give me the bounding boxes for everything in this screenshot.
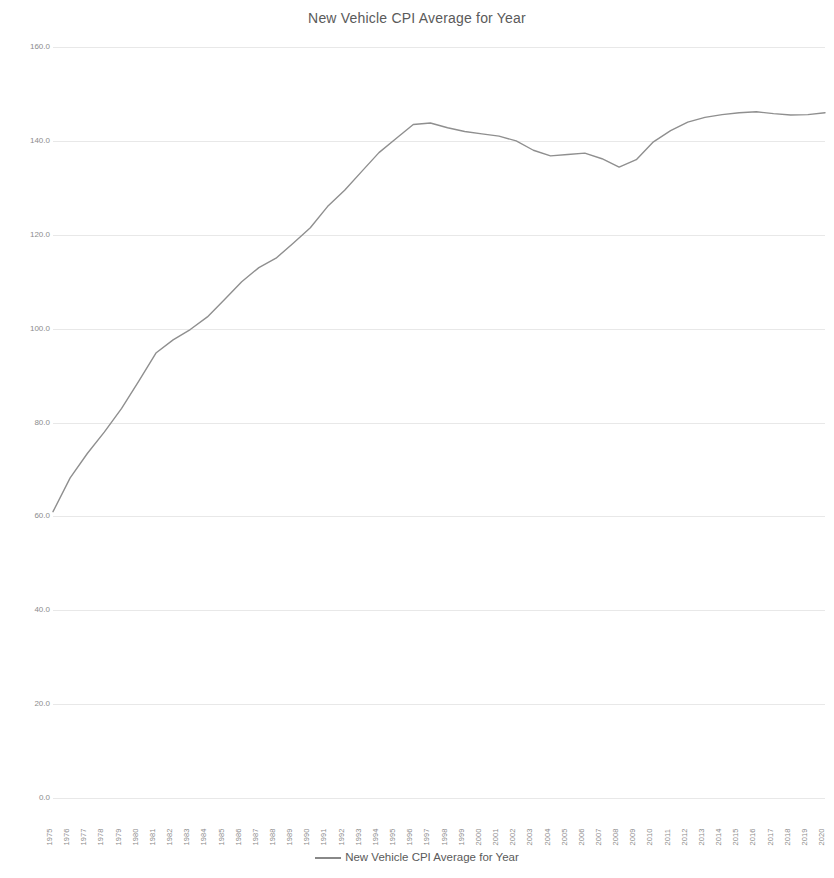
y-tick-label: 120.0 bbox=[4, 231, 50, 239]
x-tick-2013: 2013 bbox=[698, 801, 712, 845]
x-tick-2001: 2001 bbox=[492, 801, 506, 845]
x-tick-label: 1983 bbox=[183, 828, 191, 845]
x-tick-label: 2011 bbox=[663, 828, 671, 845]
x-tick-label: 2014 bbox=[715, 828, 723, 845]
x-tick-label: 2005 bbox=[560, 828, 568, 845]
x-tick-2014: 2014 bbox=[715, 801, 729, 845]
legend-line-swatch bbox=[315, 857, 341, 859]
x-tick-label: 1980 bbox=[131, 828, 139, 845]
x-tick-label: 2004 bbox=[543, 828, 551, 845]
x-tick-2015: 2015 bbox=[732, 801, 746, 845]
x-tick-label: 1985 bbox=[217, 828, 225, 845]
x-tick-label: 1999 bbox=[457, 828, 465, 845]
x-tick-1986: 1986 bbox=[235, 801, 249, 845]
chart-container: New Vehicle CPI Average for Year 0.020.0… bbox=[0, 0, 834, 878]
x-tick-label: 2013 bbox=[697, 828, 705, 845]
x-tick-label: 2010 bbox=[646, 828, 654, 845]
y-tick-label: 80.0 bbox=[4, 419, 50, 427]
x-tick-1999: 1999 bbox=[458, 801, 472, 845]
y-tick-label: 100.0 bbox=[4, 325, 50, 333]
x-axis: 1975197619771978197919801981198219831984… bbox=[53, 800, 825, 845]
x-tick-1987: 1987 bbox=[252, 801, 266, 845]
x-tick-label: 2012 bbox=[680, 828, 688, 845]
y-tick-label: 60.0 bbox=[4, 512, 50, 520]
x-tick-1992: 1992 bbox=[338, 801, 352, 845]
x-tick-label: 2000 bbox=[474, 828, 482, 845]
x-tick-label: 2017 bbox=[766, 828, 774, 845]
x-tick-label: 1991 bbox=[320, 828, 328, 845]
x-tick-label: 2009 bbox=[629, 828, 637, 845]
x-tick-label: 1979 bbox=[114, 828, 122, 845]
x-tick-1982: 1982 bbox=[166, 801, 180, 845]
x-tick-1998: 1998 bbox=[441, 801, 455, 845]
x-tick-label: 2003 bbox=[526, 828, 534, 845]
gridline-0.0 bbox=[53, 798, 825, 799]
x-tick-1977: 1977 bbox=[80, 801, 94, 845]
x-tick-1983: 1983 bbox=[183, 801, 197, 845]
x-tick-1995: 1995 bbox=[389, 801, 403, 845]
x-tick-2005: 2005 bbox=[561, 801, 575, 845]
x-tick-label: 1975 bbox=[46, 828, 54, 845]
x-tick-label: 1982 bbox=[166, 828, 174, 845]
x-tick-2020: 2020 bbox=[818, 801, 832, 845]
x-tick-2000: 2000 bbox=[475, 801, 489, 845]
x-tick-label: 2020 bbox=[818, 828, 826, 845]
x-tick-2009: 2009 bbox=[629, 801, 643, 845]
x-tick-label: 2008 bbox=[612, 828, 620, 845]
y-tick-label: 40.0 bbox=[4, 606, 50, 614]
x-tick-1980: 1980 bbox=[132, 801, 146, 845]
x-tick-1990: 1990 bbox=[303, 801, 317, 845]
x-tick-label: 2001 bbox=[492, 828, 500, 845]
x-tick-2017: 2017 bbox=[767, 801, 781, 845]
chart-legend: New Vehicle CPI Average for Year bbox=[0, 851, 834, 863]
y-axis: 0.020.040.060.080.0100.0120.0140.0160.0 bbox=[0, 47, 50, 798]
x-tick-label: 2015 bbox=[732, 828, 740, 845]
x-tick-label: 2007 bbox=[594, 828, 602, 845]
x-tick-1988: 1988 bbox=[269, 801, 283, 845]
x-tick-2007: 2007 bbox=[595, 801, 609, 845]
x-tick-1997: 1997 bbox=[423, 801, 437, 845]
x-tick-label: 1992 bbox=[337, 828, 345, 845]
x-tick-1994: 1994 bbox=[372, 801, 386, 845]
x-tick-label: 2006 bbox=[577, 828, 585, 845]
x-tick-label: 1989 bbox=[286, 828, 294, 845]
x-tick-2002: 2002 bbox=[509, 801, 523, 845]
x-tick-label: 1978 bbox=[97, 828, 105, 845]
x-tick-label: 1977 bbox=[80, 828, 88, 845]
x-tick-label: 2019 bbox=[800, 828, 808, 845]
x-tick-label: 1996 bbox=[406, 828, 414, 845]
x-tick-label: 2018 bbox=[783, 828, 791, 845]
x-tick-1981: 1981 bbox=[149, 801, 163, 845]
x-tick-1984: 1984 bbox=[200, 801, 214, 845]
x-tick-2019: 2019 bbox=[801, 801, 815, 845]
x-tick-label: 1986 bbox=[234, 828, 242, 845]
x-tick-1989: 1989 bbox=[286, 801, 300, 845]
x-tick-label: 1997 bbox=[423, 828, 431, 845]
x-tick-label: 1994 bbox=[371, 828, 379, 845]
x-tick-2003: 2003 bbox=[526, 801, 540, 845]
x-tick-label: 1990 bbox=[303, 828, 311, 845]
x-tick-label: 1993 bbox=[354, 828, 362, 845]
x-tick-1975: 1975 bbox=[46, 801, 60, 845]
x-tick-label: 1987 bbox=[251, 828, 259, 845]
x-tick-2010: 2010 bbox=[646, 801, 660, 845]
y-tick-label: 20.0 bbox=[4, 700, 50, 708]
x-tick-1991: 1991 bbox=[320, 801, 334, 845]
x-tick-2016: 2016 bbox=[749, 801, 763, 845]
x-tick-2006: 2006 bbox=[578, 801, 592, 845]
x-tick-1993: 1993 bbox=[355, 801, 369, 845]
x-tick-label: 1998 bbox=[440, 828, 448, 845]
x-tick-2004: 2004 bbox=[544, 801, 558, 845]
x-tick-1978: 1978 bbox=[97, 801, 111, 845]
x-tick-1979: 1979 bbox=[115, 801, 129, 845]
series-line-new-vehicle-cpi bbox=[53, 47, 825, 798]
x-tick-label: 1995 bbox=[389, 828, 397, 845]
legend-label-new-vehicle-cpi: New Vehicle CPI Average for Year bbox=[345, 851, 519, 863]
x-tick-2011: 2011 bbox=[664, 801, 678, 845]
x-tick-1985: 1985 bbox=[218, 801, 232, 845]
x-tick-1976: 1976 bbox=[63, 801, 77, 845]
y-tick-label: 140.0 bbox=[4, 137, 50, 145]
x-tick-label: 1981 bbox=[148, 828, 156, 845]
x-tick-2008: 2008 bbox=[612, 801, 626, 845]
x-tick-label: 2002 bbox=[509, 828, 517, 845]
